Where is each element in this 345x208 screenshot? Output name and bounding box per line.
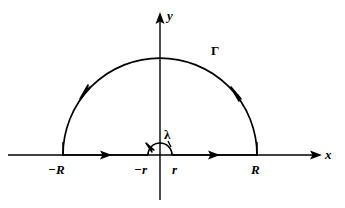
label-neg-R: −R <box>48 163 65 176</box>
label-pos-R: R <box>251 163 260 176</box>
label-neg-r: −r <box>134 163 147 176</box>
contour-diagram: x y −R −r r R Γ λ <box>0 0 345 208</box>
x-axis-label: x <box>325 148 332 161</box>
big-arc-left-arrow-icon <box>80 85 90 99</box>
label-big-arc-gamma: Γ <box>211 44 219 57</box>
label-pos-r: r <box>172 163 177 176</box>
y-axis-label: y <box>167 9 173 22</box>
label-small-arc-lambda: λ <box>164 128 170 141</box>
